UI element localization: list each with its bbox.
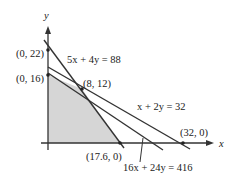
label-point-17-6-0: (17.6, 0) xyxy=(86,151,122,163)
x-axis-arrow xyxy=(206,140,214,146)
label-point-32-0: (32, 0) xyxy=(180,127,208,139)
feasible-region-graph: y x (0, 22) (0, 16) (8, 12) (17.6, 0) (3… xyxy=(0,0,238,176)
y-axis-label: y xyxy=(43,10,49,21)
label-point-0-16: (0, 16) xyxy=(16,73,44,85)
label-line-16x-24y-416: 16x + 24y = 416 xyxy=(123,162,193,173)
leader-line-16x-24y xyxy=(140,138,143,162)
label-point-8-12: (8, 12) xyxy=(83,78,111,90)
point-0-16 xyxy=(46,73,50,77)
label-line-5x-4y-88: 5x + 4y = 88 xyxy=(67,54,121,65)
label-point-0-22: (0, 22) xyxy=(16,48,44,60)
y-axis-arrow xyxy=(45,26,51,34)
point-32-0 xyxy=(181,141,185,145)
point-17-6-0 xyxy=(118,141,122,145)
point-0-22 xyxy=(46,48,50,52)
x-axis-label: x xyxy=(218,138,224,149)
label-line-x-2y-32: x + 2y = 32 xyxy=(137,101,186,112)
